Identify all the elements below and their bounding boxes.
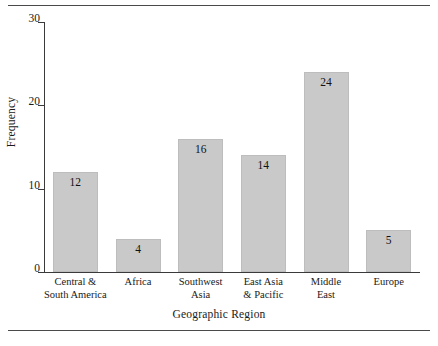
bar[interactable]: 4 xyxy=(116,239,161,272)
bar[interactable]: 5 xyxy=(366,230,411,272)
bar-group: 16SouthwestAsia xyxy=(178,22,223,272)
bar-value-label: 4 xyxy=(117,244,160,256)
y-tick-label: 10 xyxy=(29,180,41,192)
y-tick-label: 20 xyxy=(29,96,41,108)
bar-value-label: 16 xyxy=(179,144,222,156)
bar-value-label: 24 xyxy=(305,77,348,89)
bar[interactable]: 16 xyxy=(178,139,223,272)
bar[interactable]: 24 xyxy=(304,72,349,272)
x-axis-line xyxy=(44,272,420,273)
figure-top-rule xyxy=(8,5,430,6)
bar[interactable]: 14 xyxy=(241,155,286,272)
bar[interactable]: 12 xyxy=(53,172,98,272)
bar-value-label: 14 xyxy=(242,160,285,172)
bar-group: 14East Asia& Pacific xyxy=(241,22,286,272)
figure-bottom-rule xyxy=(8,330,430,331)
bar-group: 4Africa xyxy=(116,22,161,272)
bar-group: 5Europe xyxy=(366,22,411,272)
y-tick-label: 30 xyxy=(29,13,41,25)
x-axis-title: Geographic Region xyxy=(0,308,438,320)
plot-area: 0102030 12Central &South America4Africa1… xyxy=(44,22,420,272)
y-tick-label: 0 xyxy=(34,263,40,275)
bar-series: 12Central &South America4Africa16Southwe… xyxy=(44,22,420,272)
figure: Frequency 0102030 12Central &South Ameri… xyxy=(0,0,438,346)
y-axis-title: Frequency xyxy=(5,97,17,147)
x-category-label: Europe xyxy=(352,276,425,289)
bar-value-label: 12 xyxy=(54,177,97,189)
bar-group: 12Central &South America xyxy=(53,22,98,272)
bar-group: 24MiddleEast xyxy=(304,22,349,272)
bar-value-label: 5 xyxy=(367,235,410,247)
